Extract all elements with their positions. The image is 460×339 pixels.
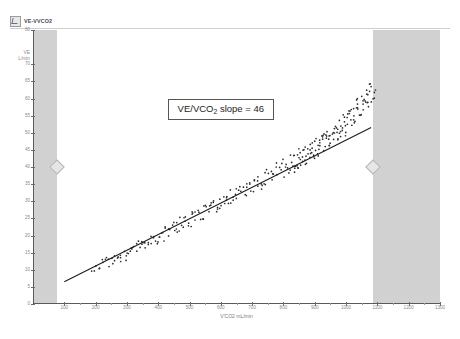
y-axis-tick-label: 60	[25, 96, 30, 101]
slope-annotation-suffix: slope = 46	[217, 103, 264, 114]
plot-area[interactable]: VEL/min V'CO2 mL/min VE/VCO2 slope = 46 …	[33, 30, 440, 304]
y-axis-tick	[31, 201, 35, 202]
y-axis-tick	[31, 30, 35, 31]
y-axis-tick	[31, 150, 35, 151]
y-axis-tick-label: 30	[25, 199, 30, 204]
x-axis-tick-label: 300	[123, 306, 131, 311]
x-axis-tick-label: 500	[186, 306, 194, 311]
y-axis-tick-label: 70	[25, 62, 30, 67]
x-axis-minor-tick	[111, 303, 112, 305]
y-axis-tick	[31, 64, 35, 65]
x-axis-tick-label: 900	[311, 306, 319, 311]
y-axis-tick	[31, 133, 35, 134]
x-axis-minor-tick	[205, 303, 206, 305]
chart-window: VE-VVCO2 VEL/min V'CO2 mL/min VE/VCO2 sl…	[0, 0, 460, 339]
y-axis-tick	[31, 270, 35, 271]
y-axis-tick-label: 20	[25, 233, 30, 238]
y-axis-tick-label: 5	[27, 285, 30, 290]
y-axis-tick	[31, 304, 35, 305]
x-axis-minor-tick	[393, 303, 394, 305]
x-axis-tick-label: 600	[217, 306, 225, 311]
x-axis-tick-label: 200	[92, 306, 100, 311]
x-axis-minor-tick	[268, 303, 269, 305]
y-axis-tick-label: 35	[25, 182, 30, 187]
y-axis-tick	[31, 184, 35, 185]
y-axis-tick	[31, 253, 35, 254]
window-title: VE-VVCO2	[24, 19, 52, 24]
regression-fit-line	[64, 128, 371, 282]
x-axis-tick-label: 800	[280, 306, 288, 311]
x-axis-minor-tick	[174, 303, 175, 305]
slope-annotation-prefix: VE/VCO	[178, 103, 214, 114]
y-axis-tick-label: 25	[25, 216, 30, 221]
x-axis-tick-label: 1200	[404, 306, 414, 311]
x-axis-tick-label: 100	[60, 306, 68, 311]
y-axis-tick-label: 80	[25, 28, 30, 33]
y-axis-tick-label: 10	[25, 267, 30, 272]
window-titlebar[interactable]: VE-VVCO2	[10, 15, 450, 29]
slope-annotation: VE/VCO2 slope = 46	[168, 99, 274, 120]
y-axis-tick	[31, 236, 35, 237]
y-axis-tick	[31, 116, 35, 117]
x-axis-minor-tick	[424, 303, 425, 305]
y-axis-tick	[31, 287, 35, 288]
x-axis-minor-tick	[237, 303, 238, 305]
x-axis-minor-tick	[299, 303, 300, 305]
y-axis-tick-label: 45	[25, 148, 30, 153]
y-axis-tick-label: 0	[27, 302, 30, 307]
y-axis-tick-label: 15	[25, 250, 30, 255]
x-axis-tick-label: 1000	[341, 306, 351, 311]
y-axis-tick	[31, 99, 35, 100]
x-axis-label: V'CO2 mL/min	[220, 314, 252, 319]
x-axis-tick-label: 1300	[435, 306, 445, 311]
y-axis-tick-label: 65	[25, 79, 30, 84]
x-axis-minor-tick	[143, 303, 144, 305]
y-axis-tick-label: 55	[25, 113, 30, 118]
y-axis-tick	[31, 218, 35, 219]
x-axis-minor-tick	[362, 303, 363, 305]
y-axis-tick	[31, 167, 35, 168]
x-axis-minor-tick	[330, 303, 331, 305]
y-axis-tick	[31, 81, 35, 82]
y-axis-tick-label: 50	[25, 130, 30, 135]
x-axis-tick-label: 400	[154, 306, 162, 311]
x-axis-tick-label: 700	[248, 306, 256, 311]
chart-window-icon	[10, 16, 21, 27]
x-axis-minor-tick	[80, 303, 81, 305]
y-axis-tick-label: 40	[25, 165, 30, 170]
x-axis-tick-label: 1100	[372, 306, 382, 311]
